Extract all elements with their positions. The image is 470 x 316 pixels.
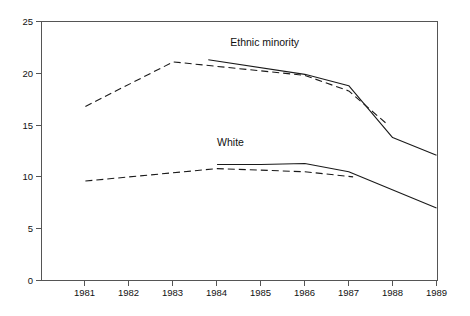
annotation-ethnic-minority: Ethnic minority (230, 36, 300, 48)
y-axis-ticks (36, 22, 42, 281)
x-tick-label-1983: 1983 (162, 287, 183, 298)
chart-canvas: 0 5 10 15 20 25 1981 1982 1983 1984 1985 (0, 0, 470, 316)
x-tick-label-1986: 1986 (294, 287, 315, 298)
y-tick-label-10: 10 (22, 171, 33, 182)
annotation-white: White (217, 136, 244, 148)
y-tick-label-0: 0 (28, 275, 33, 286)
y-tick-label-15: 15 (22, 120, 33, 131)
data-series-group (85, 60, 436, 208)
y-tick-label-20: 20 (22, 68, 33, 79)
x-tick-label-1989: 1989 (426, 287, 447, 298)
line-chart: 0 5 10 15 20 25 1981 1982 1983 1984 1985 (0, 0, 470, 316)
series-annotations: Ethnic minority White (217, 36, 300, 147)
y-tick-label-5: 5 (28, 223, 33, 234)
x-tick-label-1982: 1982 (118, 287, 139, 298)
y-axis-tick-labels: 0 5 10 15 20 25 (22, 16, 33, 286)
series-line-white-projected (85, 169, 353, 181)
x-tick-label-1984: 1984 (206, 287, 227, 298)
x-axis-tick-labels: 1981 1982 1983 1984 1985 1986 1987 1988 … (74, 287, 447, 298)
series-line-ethnic-minority-projected (85, 62, 388, 125)
x-tick-label-1987: 1987 (338, 287, 359, 298)
x-tick-label-1985: 1985 (250, 287, 271, 298)
x-axis-ticks (85, 281, 437, 287)
x-tick-label-1981: 1981 (74, 287, 95, 298)
y-tick-label-25: 25 (22, 16, 33, 27)
x-tick-label-1988: 1988 (382, 287, 403, 298)
plot-frame (41, 21, 438, 281)
